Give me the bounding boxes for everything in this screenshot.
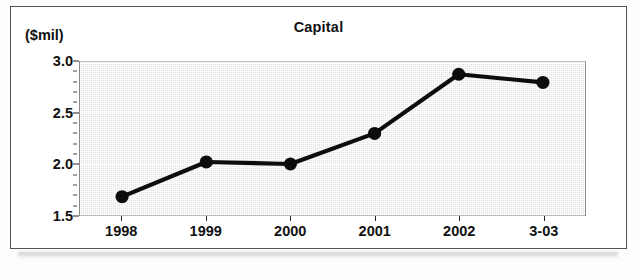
y-axis-minor-tick xyxy=(73,205,77,206)
y-axis-minor-tick xyxy=(73,81,77,82)
x-axis-tick-label: 1999 xyxy=(190,223,222,239)
x-axis-tick-label: 2000 xyxy=(274,223,306,239)
x-axis-major-tick xyxy=(290,216,291,221)
data-point-marker xyxy=(536,76,549,89)
gridlines-group xyxy=(80,62,585,215)
line-chart-svg xyxy=(80,62,585,215)
y-axis-minor-tick xyxy=(73,174,77,175)
y-axis-tick-label: 2.0 xyxy=(53,156,73,172)
y-axis-minor-tick xyxy=(73,195,77,196)
y-axis-tick-labels: 3.02.52.01.5 xyxy=(27,61,73,216)
chart-frame: ($mil) Capital 3.02.52.01.5 199819992000… xyxy=(10,6,627,249)
x-axis-major-tick xyxy=(375,216,376,221)
y-axis-minor-tick xyxy=(73,102,77,103)
figure-root: ($mil) Capital 3.02.52.01.5 199819992000… xyxy=(0,0,641,278)
x-axis-major-tick xyxy=(121,216,122,221)
series-line-capital xyxy=(122,74,543,196)
data-point-marker xyxy=(116,190,129,203)
x-axis-tick-labels: 199819992000200120023-03 xyxy=(79,221,586,245)
x-axis-tick-label: 2001 xyxy=(359,223,391,239)
y-axis-tick-label: 2.5 xyxy=(53,105,73,121)
y-axis-minor-tick xyxy=(73,92,77,93)
x-axis-major-tick xyxy=(459,216,460,221)
y-axis-minor-tick xyxy=(73,71,77,72)
plot-area xyxy=(79,61,586,216)
data-point-marker xyxy=(452,68,465,81)
y-axis-minor-tick xyxy=(73,143,77,144)
y-axis-major-tick xyxy=(73,112,79,113)
x-axis-tick-label: 3-03 xyxy=(529,223,558,239)
y-axis-minor-tick xyxy=(73,123,77,124)
y-axis-tick-label: 1.5 xyxy=(53,208,73,224)
data-point-marker xyxy=(368,127,381,140)
figure-drop-shadow xyxy=(18,252,618,259)
y-axis-minor-tick xyxy=(73,133,77,134)
x-axis-tick-label: 1998 xyxy=(105,223,137,239)
y-axis-minor-tick xyxy=(73,185,77,186)
y-axis-minor-tick xyxy=(73,154,77,155)
x-axis-major-tick xyxy=(206,216,207,221)
x-axis-major-tick xyxy=(544,216,545,221)
y-axis-major-tick xyxy=(73,61,79,62)
x-axis-tick-label: 2002 xyxy=(443,223,475,239)
y-axis-major-tick xyxy=(73,216,79,217)
y-axis-major-tick xyxy=(73,164,79,165)
series-markers-group xyxy=(116,68,550,203)
chart-title: Capital xyxy=(11,19,626,35)
data-point-marker xyxy=(200,155,213,168)
y-axis-tick-label: 3.0 xyxy=(53,53,73,69)
data-point-marker xyxy=(284,157,297,170)
